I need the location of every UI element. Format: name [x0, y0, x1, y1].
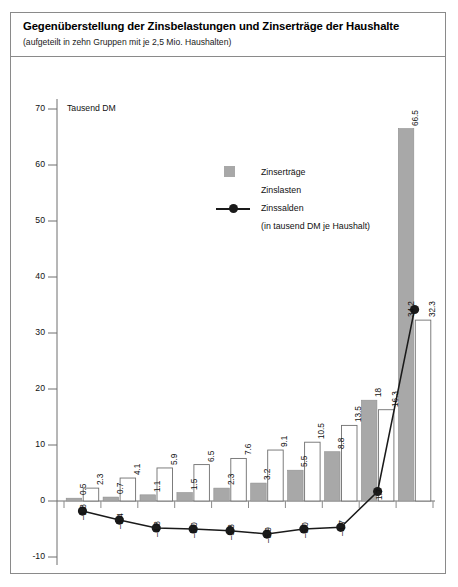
y-axis-tick-label: -10: [23, 551, 45, 561]
bar-value-label: 66.5: [410, 110, 420, 126]
y-axis-tick-label: 30: [23, 327, 45, 337]
y-axis-tick-label: 40: [23, 271, 45, 281]
bar-value-label: 3.2: [262, 469, 272, 480]
bar-value-label: 1.5: [189, 478, 199, 489]
bar-value-label: 10.5: [316, 423, 326, 439]
line-value-label: –5.9: [263, 527, 273, 543]
bar-value-label: 2.3: [95, 474, 105, 485]
legend-item-unit-note: (in tausend DM je Haushalt): [216, 219, 431, 237]
legend-item-zinssalden: Zinssalden: [216, 201, 431, 219]
legend-label: Zinserträge: [261, 167, 306, 177]
y-axis-tick-label: 10: [23, 439, 45, 449]
plot-area: Tausend DM 706050403020100-10 0.52.30.74…: [11, 57, 447, 574]
bar-value-label: 1.1: [152, 481, 162, 492]
bar-value-label: 0.5: [78, 484, 88, 495]
y-axis-tick-label: 20: [23, 383, 45, 393]
bar-value-label: 32.3: [427, 301, 437, 317]
bar-value-label: 16.3: [390, 391, 400, 407]
chart-subtitle: (aufgeteilt in zehn Gruppen mit je 2,5 M…: [23, 36, 435, 48]
line-value-label: –5.3: [226, 524, 236, 540]
chart-figure: Gegenüberstellung der Zinsbelastungen un…: [10, 12, 446, 574]
bar-value-label: 8.8: [336, 437, 346, 448]
bar-value-label: 5.5: [299, 456, 309, 467]
line-value-label: 1.7: [374, 489, 384, 500]
legend-label: Zinslasten: [261, 185, 301, 195]
bar-value-label: 13.5: [353, 407, 363, 423]
bar-value-label: 4.1: [132, 464, 142, 475]
legend-marker-dot-icon: [229, 204, 238, 213]
line-value-label: –3.4: [115, 513, 125, 529]
line-value-label: –4.7: [337, 521, 347, 537]
bar-value-label: 2.3: [226, 474, 236, 485]
y-axis-tick-label: 60: [23, 159, 45, 169]
page-title: Gegenüberstellung der Zinsbelastungen un…: [23, 19, 435, 33]
legend-item-zinsertraege: Zinserträge: [216, 165, 431, 183]
line-value-label: –5.0: [300, 522, 310, 538]
y-axis-tick-label: 50: [23, 215, 45, 225]
bar-value-label: 5.9: [169, 454, 179, 465]
line-value-label: –1.8: [78, 504, 88, 520]
legend-item-zinslasten: Zinslasten: [216, 183, 431, 201]
chart-legend: Zinserträge Zinslasten Zinssalden (in ta…: [216, 165, 431, 237]
line-value-label: 34.2: [406, 302, 416, 318]
bar-value-label: 0.7: [115, 483, 125, 494]
line-value-label: –5.0: [189, 522, 199, 538]
legend-label: (in tausend DM je Haushalt): [261, 221, 370, 231]
legend-swatch-gray-icon: [224, 166, 235, 177]
legend-label: Zinssalden: [261, 203, 304, 213]
bar-value-label: 6.5: [206, 450, 216, 461]
bar-value-label: 18: [373, 388, 383, 397]
bar-value-label: 9.1: [279, 436, 289, 447]
legend-swatch-white-icon: [224, 184, 235, 195]
y-axis-tick-label: 0: [23, 495, 45, 505]
y-axis-tick-label: 70: [23, 103, 45, 113]
line-value-label: –4.8: [152, 521, 162, 537]
bar-value-label: 7.6: [243, 444, 253, 455]
y-axis-unit-label: Tausend DM: [67, 103, 116, 113]
chart-header: Gegenüberstellung der Zinsbelastungen un…: [11, 13, 445, 57]
